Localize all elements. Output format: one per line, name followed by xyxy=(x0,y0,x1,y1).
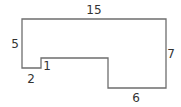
bottom-right-side-label: 6 xyxy=(132,91,140,105)
right-side-label: 7 xyxy=(167,47,175,61)
composite-shape-diagram: 15 7 6 5 2 1 xyxy=(0,0,181,107)
left-side-label: 5 xyxy=(11,37,19,51)
top-side-label: 15 xyxy=(86,3,101,17)
notch-side-label: 1 xyxy=(43,59,51,73)
bottom-left-side-label: 2 xyxy=(27,72,35,86)
shape-outline xyxy=(22,19,166,88)
